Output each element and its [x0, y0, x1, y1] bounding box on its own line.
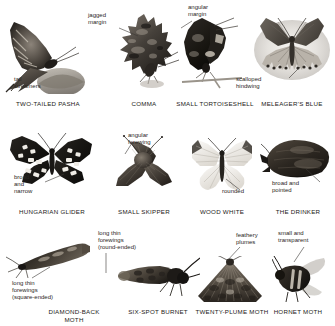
annotation-tail-streamers: tail streamers: [14, 76, 58, 90]
annotation-rounded: rounded: [222, 188, 258, 195]
leader-small-and-transparent: [292, 246, 306, 264]
insect-identification-plate: tail streamers TWO-TAILED PASHA: [0, 0, 335, 326]
annotation-feathery-plumes: feathery plumes: [236, 232, 272, 246]
leader-angular-forewing: [124, 142, 134, 156]
leader-scalloped-hindwing: [286, 66, 302, 80]
caption-two-tailed-pasha: TWO-TAILED PASHA: [2, 100, 94, 108]
annotation-broad-and-narrow: broad and narrow: [14, 174, 54, 196]
leader-angular-margin: [180, 16, 194, 26]
leader-long-thin-forewings-round: [104, 252, 108, 274]
annotation-small-and-transparent: small and transparent: [278, 230, 322, 244]
caption-diamond-back-moth: DIAMOND-BACK MOTH: [36, 308, 112, 323]
caption-small-skipper: SMALL SKIPPER: [104, 208, 184, 216]
annotation-jagged-margin: jagged margin: [88, 12, 122, 26]
caption-the-drinker: THE DRINKER: [262, 208, 334, 216]
annotation-long-thin-forewings-square: long thin forewings (square-ended): [12, 280, 72, 302]
caption-meleagers-blue: MELEAGER'S BLUE: [250, 100, 334, 108]
leader-jagged-margin: [118, 24, 140, 36]
diamond-back-moth-photo: [6, 238, 98, 282]
annotation-long-thin-forewings-round: long thin forewings (round-ended): [98, 230, 160, 252]
annotation-scalloped-hindwing: scalloped hindwing: [236, 76, 282, 90]
caption-hornet-moth: HORNET MOTH: [262, 308, 334, 316]
caption-small-tortoiseshell: SMALL TORTOISESHELL: [168, 100, 262, 108]
leader-long-thin-forewings-square: [30, 266, 52, 280]
caption-wood-white: WOOD WHITE: [184, 208, 260, 216]
annotation-broad-and-pointed: broad and pointed: [272, 180, 320, 194]
leader-feathery-plumes: [224, 246, 242, 264]
caption-hungarian-glider: HUNGARIAN GLIDER: [6, 208, 98, 216]
